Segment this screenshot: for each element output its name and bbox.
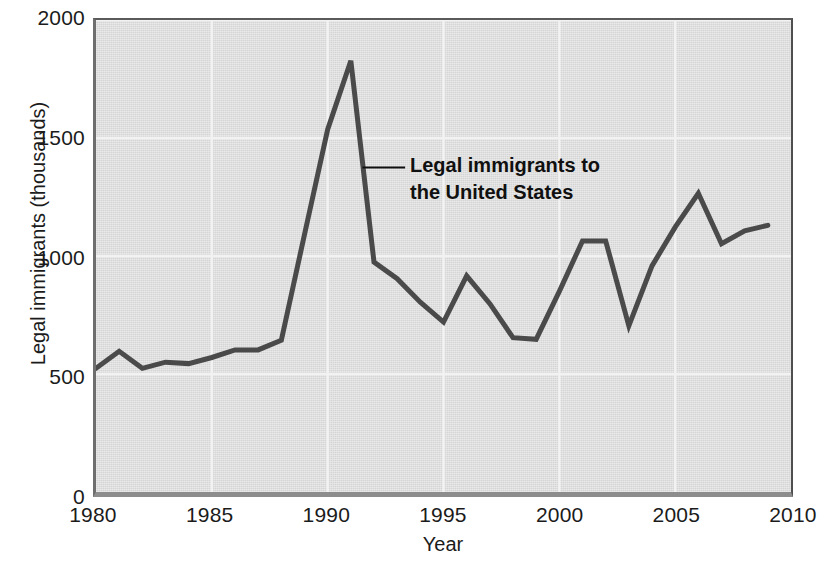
x-tick-label: 1985	[186, 503, 234, 527]
y-axis-title: Legal immigrants (thousands)	[27, 34, 50, 434]
y-tick-label: 2000	[1, 6, 85, 30]
x-tick-label: 2010	[769, 503, 817, 527]
x-tick-label: 2000	[536, 503, 584, 527]
x-axis-title: Year	[93, 533, 793, 556]
series-annotation-label: Legal immigrants to the United States	[410, 152, 600, 205]
plot-area	[93, 18, 793, 497]
x-tick-label: 1980	[69, 503, 117, 527]
x-tick-label: 1995	[419, 503, 467, 527]
x-tick-label: 2005	[653, 503, 701, 527]
data-series-line	[96, 20, 791, 492]
x-axis-tick-labels: 1980198519901995200020052010	[93, 503, 793, 533]
x-tick-label: 1990	[303, 503, 351, 527]
